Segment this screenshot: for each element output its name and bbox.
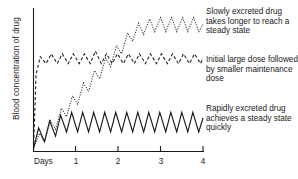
pharmacokinetics-chart: Blood concentration of drug Days 1 2 3 4… [0,0,298,179]
series-line-dashed [34,51,204,149]
x-tick-label-1: 1 [69,157,83,166]
x-tick-label-2: 2 [111,157,125,166]
x-tick-label-3: 3 [154,157,168,166]
series-line-solid [34,112,204,148]
annotation-slowly-excreted: Slowly excreted drug takes longer to rea… [206,7,298,36]
x-tick-label-4: 4 [196,157,210,166]
axis-lines [34,8,205,152]
x-axis-label: Days [34,157,53,166]
annotation-rapidly-excreted: Rapidly excreted drug achieves a steady … [206,104,298,133]
data-series-layer [34,18,204,149]
annotation-initial-large-dose: Initial large dose followed by smaller m… [206,55,298,84]
